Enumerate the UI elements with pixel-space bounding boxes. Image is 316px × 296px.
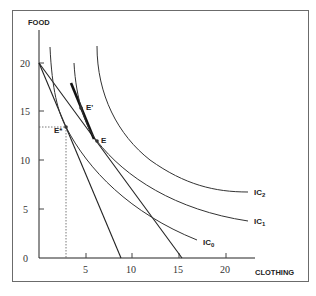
label-e: E [101, 136, 107, 145]
budget-line-flat [39, 63, 182, 258]
y-tick-label: 15 [20, 106, 30, 117]
x-tick-label: 20 [220, 264, 230, 275]
point-e-prime [79, 106, 83, 110]
x-tick-label: 15 [173, 264, 183, 275]
y-tick-label: 5 [23, 204, 28, 215]
y-tick-label: 10 [20, 155, 30, 166]
ic2-curve [97, 46, 248, 192]
x-axis-title: CLOTHING [255, 268, 294, 277]
y-tick-label: 20 [20, 58, 30, 69]
budget-line-steep [39, 63, 121, 258]
point-e-star [64, 125, 68, 129]
label-ic1: IC1 [254, 217, 266, 227]
label-ic2: IC2 [254, 188, 266, 198]
y-axis-title: FOOD [28, 18, 50, 27]
ic0-curve [50, 47, 197, 240]
x-tick-label: 10 [126, 264, 136, 275]
y-ticks [39, 63, 44, 209]
label-ic0: IC0 [203, 238, 215, 248]
chart-svg: 0 5 10 15 20 5 10 15 20 FOOD CLOTHING E*… [0, 0, 316, 296]
x-tick-label: 5 [83, 264, 88, 275]
x-ticks [86, 253, 226, 258]
label-e-star: E* [54, 126, 63, 135]
y-tick-label: 0 [23, 253, 28, 264]
point-e [95, 139, 99, 143]
label-e-prime: E' [86, 103, 93, 112]
